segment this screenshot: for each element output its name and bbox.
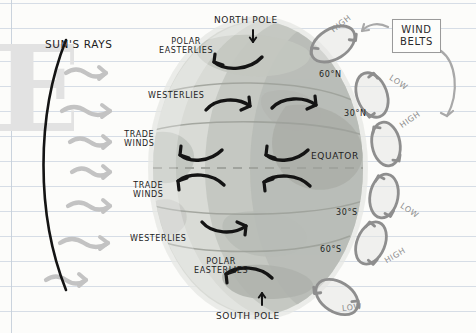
sun-ray-2 (62, 105, 110, 117)
latitude-label-equator: EQUATOR (311, 152, 359, 162)
sun-ray-arrows (46, 67, 110, 286)
wind-belt-label-polar-easterlies-north: POLAR EASTERLIES (159, 38, 213, 55)
circulation-cell-3 (368, 120, 403, 168)
wind-belts-title-box: WIND BELTS (392, 19, 441, 53)
circulation-cell-4 (366, 172, 401, 220)
sun-ray-3 (70, 136, 110, 148)
sun-arc (44, 40, 67, 290)
sun-ray-1 (66, 67, 106, 79)
south-pole-label: SOUTH POLE (216, 312, 280, 322)
latitude-label-30n: 30°N (344, 110, 367, 119)
sun-ray-4 (72, 166, 110, 178)
wind-belt-label-trade-winds-north: TRADE WINDS (124, 131, 155, 148)
wind-belt-label-westerlies-north: WESTERLIES (148, 92, 205, 101)
sun-ray-6 (60, 237, 108, 249)
wind-belt-label-trade-winds-south: TRADE WINDS (133, 182, 164, 199)
latitude-label-60s: 60°S (320, 246, 342, 255)
callout-arrow-right (441, 51, 455, 116)
sun-rays-label: SUN'S RAYS (45, 39, 112, 50)
north-pole-label: NORTH POLE (214, 16, 278, 26)
wind-belts-diagram: ESS (0, 0, 476, 333)
wind-belt-label-polar-easterlies-south: POLAR EASTERLIES (194, 258, 248, 275)
sun-ray-5 (68, 200, 110, 212)
latitude-label-30s: 30°S (336, 209, 358, 218)
wind-belt-label-westerlies-south: WESTERLIES (130, 235, 187, 244)
latitude-label-60n: 60°N (319, 71, 342, 80)
sun-ray-7 (46, 274, 86, 286)
